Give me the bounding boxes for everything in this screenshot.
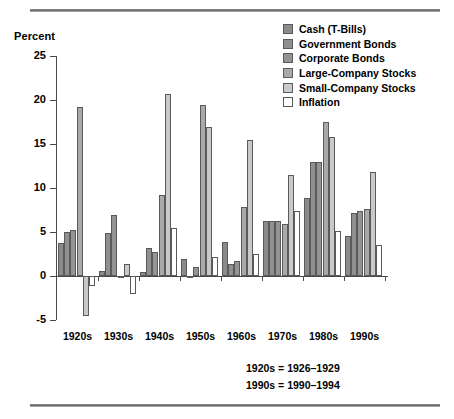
bar-group — [180, 56, 221, 320]
bar — [310, 162, 316, 276]
x-tick-label: 1950s — [179, 330, 223, 342]
bar — [212, 257, 218, 276]
bar — [234, 261, 240, 276]
x-axis-tick-labels: 1920s1930s1940s1950s1960s1970s1980s1990s — [57, 330, 385, 346]
bar — [171, 228, 177, 276]
x-tick-mark — [385, 276, 386, 281]
bar — [357, 211, 363, 276]
x-tick-label: 1930s — [97, 330, 141, 342]
bar — [364, 209, 370, 276]
x-tick-mark — [344, 276, 345, 281]
x-tick-label: 1980s — [302, 330, 346, 342]
bar — [304, 198, 310, 276]
bar — [335, 231, 341, 276]
bar — [206, 127, 212, 276]
bar — [140, 272, 146, 276]
legend-swatch-icon — [283, 68, 293, 78]
bar — [228, 264, 234, 276]
bar — [247, 140, 253, 276]
bar — [329, 137, 335, 276]
bar — [294, 211, 300, 276]
legend-item[interactable]: Cash (T-Bills) — [283, 22, 416, 37]
x-tick-label: 1920s — [56, 330, 100, 342]
bar — [222, 242, 228, 276]
bar — [351, 213, 357, 276]
legend-item[interactable]: Corporate Bonds — [283, 51, 416, 66]
legend-item[interactable]: Inflation — [283, 95, 416, 110]
x-tick-label: 1940s — [138, 330, 182, 342]
bar — [89, 276, 95, 286]
x-tick-mark — [303, 276, 304, 281]
legend-label: Small-Company Stocks — [299, 82, 416, 94]
bar — [64, 232, 70, 276]
chart-page: Percent 2520151050-5 1920s1930s1940s1950… — [0, 0, 454, 419]
legend-label: Government Bonds — [299, 38, 396, 50]
y-tick-label: 10 — [2, 181, 46, 193]
legend-item[interactable]: Large-Company Stocks — [283, 66, 416, 81]
bar — [241, 207, 247, 276]
y-axis-title: Percent — [14, 30, 55, 42]
bar — [83, 276, 89, 316]
y-axis-tick-labels: 2520151050-5 — [0, 56, 46, 320]
y-tick-mark — [50, 232, 56, 233]
y-tick-mark — [50, 320, 56, 321]
legend-item[interactable]: Government Bonds — [283, 37, 416, 52]
bar — [124, 264, 130, 276]
bar — [77, 107, 83, 276]
legend-swatch-icon — [283, 97, 293, 107]
bar — [370, 172, 376, 276]
bar — [323, 122, 329, 276]
bar — [193, 267, 199, 276]
x-tick-mark — [139, 276, 140, 281]
chart-legend: Cash (T-Bills)Government BondsCorporate … — [283, 22, 416, 110]
bar — [345, 236, 351, 276]
chart-footnotes: 1920s = 1926–19291990s = 1990–1994 — [246, 360, 340, 394]
x-tick-mark — [180, 276, 181, 281]
y-tick-mark — [50, 100, 56, 101]
legend-label: Cash (T-Bills) — [299, 23, 366, 35]
bar — [275, 221, 281, 276]
x-tick-label: 1970s — [261, 330, 305, 342]
legend-swatch-icon — [283, 39, 293, 49]
bar — [200, 105, 206, 276]
y-tick-mark — [50, 56, 56, 57]
x-tick-mark — [262, 276, 263, 281]
bar-group — [57, 56, 98, 320]
bar — [152, 252, 158, 276]
y-tick-mark — [50, 144, 56, 145]
legend-label: Large-Company Stocks — [299, 67, 416, 79]
bar — [70, 230, 76, 276]
bottom-rule — [30, 404, 440, 407]
x-tick-label: 1990s — [343, 330, 387, 342]
y-tick-mark — [50, 276, 56, 277]
y-tick-label: 25 — [2, 49, 46, 61]
x-tick-label: 1960s — [220, 330, 264, 342]
x-tick-mark — [221, 276, 222, 281]
bar — [269, 221, 275, 276]
footnote: 1990s = 1990–1994 — [246, 377, 340, 394]
bar-group — [221, 56, 262, 320]
bar — [159, 195, 165, 276]
legend-label: Inflation — [299, 96, 340, 108]
footnote: 1920s = 1926–1929 — [246, 360, 340, 377]
bar — [165, 94, 171, 276]
x-tick-mark — [98, 276, 99, 281]
legend-swatch-icon — [283, 24, 293, 34]
legend-swatch-icon — [283, 83, 293, 93]
bar-group — [139, 56, 180, 320]
y-tick-label: 0 — [2, 269, 46, 281]
bar — [187, 276, 193, 278]
y-tick-mark — [50, 188, 56, 189]
bar — [111, 215, 117, 276]
legend-swatch-icon — [283, 53, 293, 63]
bar — [146, 248, 152, 276]
legend-item[interactable]: Small-Company Stocks — [283, 80, 416, 95]
bar — [130, 276, 136, 294]
legend-label: Corporate Bonds — [299, 52, 385, 64]
bar — [282, 224, 288, 276]
y-tick-label: -5 — [2, 313, 46, 325]
bar-group — [98, 56, 139, 320]
bar — [288, 175, 294, 276]
top-rule — [30, 9, 440, 12]
bar — [263, 221, 269, 276]
